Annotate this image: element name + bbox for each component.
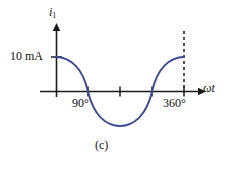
waveform-plot (0, 0, 227, 169)
y-axis-arrowhead (53, 23, 61, 31)
x-axis (40, 88, 206, 96)
x-axis-label-360: 360° (163, 97, 186, 109)
waveform-figure: i1 10 mA 90° 360° ωt (c) (0, 0, 227, 169)
x-axis-label: ωt (203, 82, 215, 94)
figure-caption: (c) (95, 139, 108, 151)
y-axis-label: i1 (49, 6, 56, 20)
y-axis (53, 23, 61, 97)
peak-amplitude-label: 10 mA (10, 50, 43, 62)
x-axis-label-90: 90° (72, 97, 89, 109)
y-axis-label-subscript: 1 (52, 11, 56, 20)
